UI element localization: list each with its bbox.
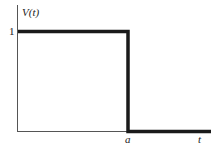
x-marker-label: a (125, 133, 131, 145)
x-axis-label: t (198, 133, 202, 145)
step-function-diagram: V(t) 1 a t (0, 0, 223, 147)
y-tick-label: 1 (9, 25, 15, 37)
step-curve (18, 32, 211, 132)
y-axis-label: V(t) (22, 6, 39, 19)
